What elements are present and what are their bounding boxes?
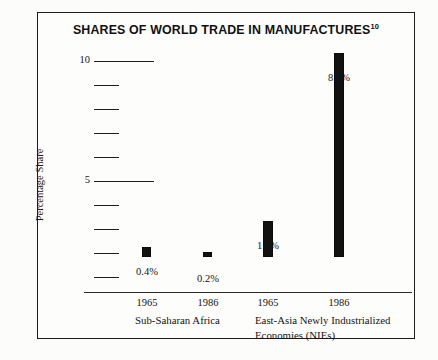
y-tick-5 — [94, 181, 154, 182]
plot-area: Percentage Share 10 5 0.4% 0.2% — [38, 13, 414, 338]
group-label-line: Sub-Saharan Africa — [100, 313, 255, 328]
bar-sub-saharan-africa-1986 — [203, 252, 212, 257]
chart-figure: SHARES OF WORLD TRADE IN MANUFACTURES10 … — [0, 0, 438, 360]
x-tick-label-group0-1965: 1965 — [122, 297, 172, 308]
bar-value-sub-saharan-africa-1986: 0.2% — [183, 273, 233, 284]
y-tick-10 — [94, 61, 154, 62]
group-label-line: Economies (NIEs) — [255, 328, 420, 343]
group-label-line: East-Asia Newly Industrialized — [255, 313, 420, 328]
y-tick-9 — [94, 85, 119, 86]
group-label-east-asia-nies: East-Asia Newly Industrialized Economies… — [255, 313, 420, 343]
bar-sub-saharan-africa-1965 — [142, 247, 151, 257]
x-axis-line — [84, 292, 412, 293]
bar-value-east-asia-nies-1965: 1.5% — [243, 240, 293, 251]
y-tick-2 — [94, 253, 119, 254]
x-tick-label-group0-1986: 1986 — [183, 297, 233, 308]
y-tick-7 — [94, 133, 119, 134]
y-tick-3 — [94, 229, 119, 230]
x-tick-label-group1-1986: 1986 — [314, 297, 364, 308]
bar-east-asia-nies-1986 — [334, 53, 344, 257]
bar-east-asia-nies-1965 — [263, 221, 273, 257]
y-tick-8 — [94, 109, 119, 110]
chart-frame: SHARES OF WORLD TRADE IN MANUFACTURES10 … — [37, 12, 415, 339]
y-tick-4 — [94, 205, 119, 206]
y-axis-label: Percentage Share — [34, 125, 45, 245]
bar-value-east-asia-nies-1986: 8.5% — [314, 72, 364, 83]
y-tick-6 — [94, 157, 119, 158]
x-tick-label-group1-1965: 1965 — [243, 297, 293, 308]
y-tick-label-5: 5 — [66, 174, 90, 185]
bar-value-sub-saharan-africa-1965: 0.4% — [122, 266, 172, 277]
group-label-sub-saharan-africa: Sub-Saharan Africa — [100, 313, 255, 328]
y-tick-1 — [94, 277, 119, 278]
y-tick-label-10: 10 — [66, 54, 90, 65]
